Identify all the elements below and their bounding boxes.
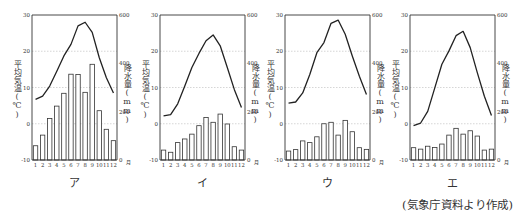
month-label: 6 — [447, 162, 451, 168]
right-tick-label: 600 — [372, 12, 383, 18]
precipitation-bar — [468, 131, 472, 160]
precipitation-bar — [301, 141, 305, 160]
precipitation-bar — [232, 147, 236, 160]
precipitation-bar — [418, 149, 422, 160]
precipitation-bar — [489, 149, 493, 160]
month-label: 7 — [454, 162, 457, 168]
left-tick-label: 0 — [280, 121, 284, 127]
month-label: 5 — [62, 162, 65, 168]
precipitation-bar — [48, 118, 52, 160]
right-tick-label: 600 — [119, 12, 130, 18]
left-tick-label: 10 — [276, 85, 283, 91]
precipitation-bar — [90, 64, 94, 160]
right-tick-label: 600 — [497, 12, 508, 18]
climate-chart-3: 3020100-106004002000月123456789101112平均気温… — [265, 12, 385, 190]
precipitation-bar — [197, 126, 201, 160]
month-label: 12 — [363, 162, 370, 168]
temperature-line — [414, 31, 492, 125]
precipitation-bar — [62, 93, 66, 160]
climate-charts-figure: 3020100-106004002000月123456789101112平均気温… — [0, 0, 527, 219]
left-tick-label: 20 — [151, 48, 158, 54]
left-tick-label: 20 — [23, 48, 30, 54]
right-tick-label: 600 — [247, 12, 258, 18]
left-tick-label: -10 — [21, 157, 30, 163]
month-label: 8 — [461, 162, 465, 168]
month-unit-label: 月 — [126, 159, 131, 166]
precipitation-bar — [336, 135, 340, 160]
month-label: 4 — [183, 162, 187, 168]
left-tick-label: 0 — [27, 121, 31, 127]
month-label: 2 — [169, 162, 172, 168]
month-unit-label: 月 — [379, 159, 384, 166]
month-label: 2 — [419, 162, 422, 168]
precipitation-bar — [308, 143, 312, 160]
left-tick-label: 30 — [401, 12, 408, 18]
precipitation-bar — [161, 150, 165, 160]
month-label: 6 — [69, 162, 73, 168]
precipitation-bar — [204, 117, 208, 160]
month-label: 1 — [34, 162, 37, 168]
right-tick-label: 0 — [497, 157, 501, 163]
precipitation-bar — [104, 129, 108, 160]
precipitation-bar — [322, 124, 326, 160]
precipitation-bar — [286, 151, 290, 160]
month-label: 6 — [322, 162, 326, 168]
month-label: 3 — [426, 162, 429, 168]
month-label: 12 — [110, 162, 117, 168]
left-tick-label: 30 — [151, 12, 158, 18]
left-tick-label: 0 — [155, 121, 159, 127]
precipitation-bar — [357, 148, 361, 160]
month-label: 2 — [41, 162, 44, 168]
precipitation-bar — [218, 114, 222, 160]
month-label: 3 — [301, 162, 304, 168]
chart-title: イ — [197, 177, 208, 190]
precipitation-bar — [475, 136, 479, 160]
precipitation-bar — [176, 143, 180, 160]
month-label: 5 — [190, 162, 193, 168]
precipitation-bar — [482, 150, 486, 160]
precipitation-bar — [411, 148, 415, 160]
left-axis-label: 平均気温(℃) — [265, 60, 275, 119]
month-label: 11 — [481, 162, 488, 168]
left-tick-label: 0 — [405, 121, 409, 127]
left-tick-label: 10 — [151, 85, 158, 91]
month-label: 5 — [315, 162, 318, 168]
month-label: 4 — [433, 162, 437, 168]
climate-chart-1: 3020100-106004002000月123456789101112平均気温… — [12, 12, 132, 190]
month-label: 11 — [356, 162, 363, 168]
precipitation-bar — [211, 122, 215, 160]
left-tick-label: 30 — [23, 12, 30, 18]
left-axis-label: 平均気温(℃) — [12, 60, 22, 119]
month-label: 9 — [344, 162, 348, 168]
right-tick-label: 0 — [372, 157, 376, 163]
month-label: 3 — [176, 162, 179, 168]
left-tick-label: 30 — [276, 12, 283, 18]
month-label: 1 — [162, 162, 165, 168]
precipitation-bar — [433, 147, 437, 160]
right-axis-label: 降水量(mm) — [122, 63, 131, 124]
temperature-line — [289, 20, 367, 103]
right-tick-label: 0 — [247, 157, 251, 163]
month-label: 5 — [440, 162, 443, 168]
precipitation-bar — [329, 122, 333, 160]
month-label: 11 — [231, 162, 238, 168]
precipitation-bar — [225, 124, 229, 160]
left-tick-label: 20 — [276, 48, 283, 54]
month-label: 12 — [488, 162, 495, 168]
left-tick-label: 20 — [401, 48, 408, 54]
precipitation-bar — [83, 92, 87, 160]
left-tick-label: -10 — [399, 157, 408, 163]
temperature-line — [36, 22, 114, 99]
source-caption: (気象庁資料より作成) — [402, 196, 513, 212]
precipitation-bar — [69, 74, 73, 160]
precipitation-bar — [461, 134, 465, 160]
month-label: 9 — [469, 162, 473, 168]
right-axis-label: 降水量(mm) — [250, 63, 259, 124]
left-tick-label: 10 — [401, 85, 408, 91]
chart-title: エ — [447, 177, 458, 190]
precipitation-bar — [440, 144, 444, 160]
precipitation-bar — [364, 149, 368, 160]
left-tick-label: -10 — [274, 157, 283, 163]
precipitation-bar — [239, 150, 243, 160]
precipitation-bar — [76, 74, 80, 160]
